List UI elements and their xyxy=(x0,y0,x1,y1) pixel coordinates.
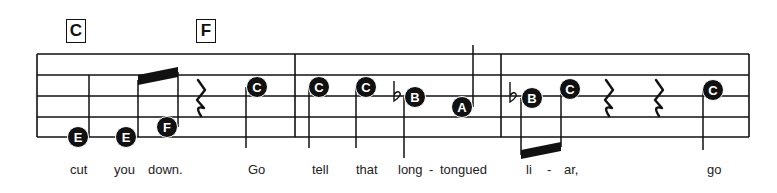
lyric-syllable: long xyxy=(398,162,423,177)
flat-icon xyxy=(510,82,516,102)
lyric-syllable: down. xyxy=(148,162,183,177)
lyric-syllable: tell xyxy=(312,162,329,177)
note-c: C xyxy=(355,76,377,98)
flat-icon xyxy=(394,81,400,101)
chord-symbol-f: F xyxy=(196,19,216,43)
quarter-rest-icon xyxy=(655,80,663,116)
quarter-rest-icon xyxy=(197,80,205,116)
lyric-syllable: you xyxy=(114,162,135,177)
lyric-syllable: cut xyxy=(70,162,87,177)
quarter-rest-icon xyxy=(605,80,613,116)
beam xyxy=(138,67,178,85)
chord-symbol-c: C xyxy=(66,19,86,43)
lyric-syllable: ar, xyxy=(564,162,578,177)
note-c: C xyxy=(246,76,268,98)
note-c: C xyxy=(308,76,330,98)
lyric-syllable: Go xyxy=(248,162,265,177)
note-c: C xyxy=(702,79,724,101)
lyric-syllable: go xyxy=(707,162,721,177)
note-b: B xyxy=(404,86,426,108)
lyric-syllable: that xyxy=(356,162,378,177)
beam xyxy=(521,142,561,159)
lyric-hyphen: - xyxy=(429,162,433,177)
lyric-hyphen: - xyxy=(547,162,551,177)
note-b: B xyxy=(521,87,543,109)
lyric-syllable: tongued xyxy=(440,162,487,177)
lyric-syllable: li xyxy=(526,162,532,177)
note-f: F xyxy=(156,116,178,138)
sheet-music: CF EEFCCCBABCC cutyoudown.Gotellthatlong… xyxy=(0,0,777,193)
note-a: A xyxy=(451,96,473,118)
note-c: C xyxy=(559,78,581,100)
note-e: E xyxy=(67,126,89,148)
note-e: E xyxy=(115,126,137,148)
